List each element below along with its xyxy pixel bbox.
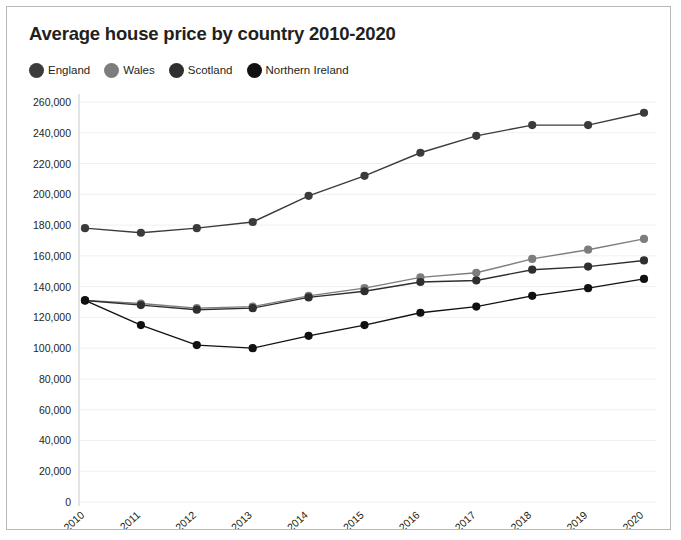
data-point[interactable] <box>137 321 145 329</box>
y-axis-tick-label: 160,000 <box>33 250 71 262</box>
data-point[interactable] <box>249 304 257 312</box>
data-point[interactable] <box>416 278 424 286</box>
y-axis-tick-label: 100,000 <box>33 342 71 354</box>
y-axis-tick-labels: 020,00040,00060,00080,000100,000120,0001… <box>33 96 71 508</box>
data-point[interactable] <box>472 269 480 277</box>
data-point[interactable] <box>640 109 648 117</box>
data-point[interactable] <box>249 344 257 352</box>
line-chart-svg: 020,00040,00060,00080,000100,000120,0001… <box>7 7 670 529</box>
x-axis-tick-label: 2020 <box>620 508 646 529</box>
data-point[interactable] <box>528 255 536 263</box>
data-point[interactable] <box>360 321 368 329</box>
x-axis-tick-label: 2010 <box>61 508 87 529</box>
x-axis-tick-label: 2019 <box>564 508 590 529</box>
data-point[interactable] <box>584 263 592 271</box>
series-line-wales <box>85 239 644 308</box>
data-point[interactable] <box>640 235 648 243</box>
data-point[interactable] <box>360 172 368 180</box>
y-axis-tick-label: 20,000 <box>39 465 71 477</box>
y-axis-tick-label: 260,000 <box>33 96 71 108</box>
x-axis-tick-label: 2011 <box>117 508 142 529</box>
chart-card: Average house price by country 2010-2020… <box>6 6 671 530</box>
y-axis-tick-label: 180,000 <box>33 219 71 231</box>
chart-plot-area: 020,00040,00060,00080,000100,000120,0001… <box>7 7 670 529</box>
x-axis-tick-labels: 2010201120122013201420152016201720182019… <box>61 508 646 529</box>
y-axis-tick-label: 140,000 <box>33 281 71 293</box>
data-point[interactable] <box>640 256 648 264</box>
y-axis-tick-label: 0 <box>65 496 71 508</box>
x-axis-tick-label: 2014 <box>285 508 311 529</box>
data-point[interactable] <box>193 224 201 232</box>
data-point[interactable] <box>584 246 592 254</box>
x-axis-tick-label: 2017 <box>452 508 478 529</box>
y-axis-tick-label: 220,000 <box>33 158 71 170</box>
data-point[interactable] <box>416 309 424 317</box>
data-point[interactable] <box>193 306 201 314</box>
y-axis-tick-label: 120,000 <box>33 311 71 323</box>
data-point[interactable] <box>472 132 480 140</box>
y-axis-tick-label: 80,000 <box>39 373 71 385</box>
data-point[interactable] <box>193 341 201 349</box>
y-axis-tick-label: 40,000 <box>39 434 71 446</box>
data-point[interactable] <box>528 121 536 129</box>
data-point[interactable] <box>249 218 257 226</box>
data-point[interactable] <box>584 284 592 292</box>
data-point[interactable] <box>416 149 424 157</box>
data-point[interactable] <box>584 121 592 129</box>
data-point[interactable] <box>305 293 313 301</box>
data-series <box>81 109 648 353</box>
gridlines <box>79 94 656 506</box>
data-point[interactable] <box>472 276 480 284</box>
data-point[interactable] <box>472 303 480 311</box>
data-point[interactable] <box>528 266 536 274</box>
data-point[interactable] <box>360 287 368 295</box>
x-axis-tick-label: 2018 <box>508 508 534 529</box>
x-axis-tick-label: 2012 <box>173 508 199 529</box>
x-axis-tick-label: 2013 <box>229 508 255 529</box>
data-point[interactable] <box>640 275 648 283</box>
data-point[interactable] <box>528 292 536 300</box>
y-axis-tick-label: 200,000 <box>33 188 71 200</box>
data-point[interactable] <box>137 229 145 237</box>
y-axis-tick-label: 240,000 <box>33 127 71 139</box>
x-axis-tick-label: 2016 <box>396 508 422 529</box>
x-axis-tick-label: 2015 <box>340 508 366 529</box>
data-point[interactable] <box>137 301 145 309</box>
y-axis-tick-label: 60,000 <box>39 404 71 416</box>
data-point[interactable] <box>81 296 89 304</box>
data-point[interactable] <box>81 224 89 232</box>
data-point[interactable] <box>305 332 313 340</box>
data-point[interactable] <box>305 192 313 200</box>
